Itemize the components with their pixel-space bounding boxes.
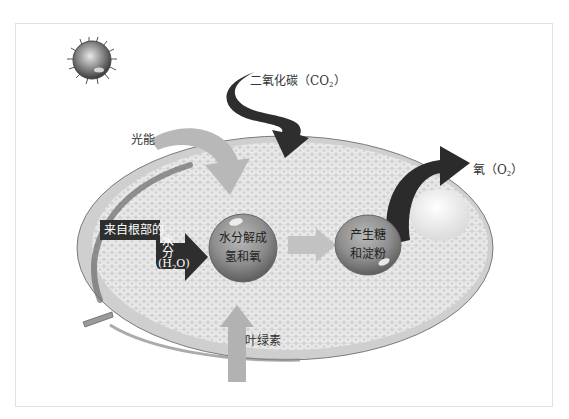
oxygen-label: 氧（O2） <box>473 164 523 178</box>
photosynthesis-scene <box>0 0 569 419</box>
water-source-label-line1: 来自根部的 <box>104 224 164 236</box>
chlorophyll-label: 叶绿素 <box>245 335 281 347</box>
sun-icon <box>67 37 117 84</box>
carbon-dioxide-label: 二氧化碳（CO2） <box>250 75 346 89</box>
water-formula-label: (H2O) <box>158 258 190 272</box>
light-energy-label: 光能 <box>131 134 155 146</box>
bubble-water-split-text: 水分解成 氢和氧 <box>209 229 277 267</box>
bubble-sugar-starch-text: 产生糖 和淀粉 <box>335 226 401 264</box>
